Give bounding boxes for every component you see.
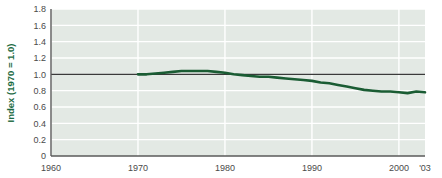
- y-tick-label: 0.6: [33, 102, 46, 112]
- x-tick-label: '03: [419, 163, 431, 173]
- y-tick-label: 0.2: [33, 135, 46, 145]
- y-tick-label: 1.6: [33, 21, 46, 31]
- x-tick-label: 1970: [128, 163, 148, 173]
- y-tick-label: 0: [41, 151, 46, 161]
- x-tick-label: 1960: [41, 163, 61, 173]
- plot-area-background: [51, 9, 425, 156]
- y-tick-label: 1.8: [33, 4, 46, 14]
- x-tick-label: 2000: [389, 163, 409, 173]
- x-tick-label: 1990: [302, 163, 322, 173]
- y-tick-label: 0.8: [33, 86, 46, 96]
- chart-container: 1.81.61.41.21.00.80.60.40.20 19601970198…: [0, 0, 442, 178]
- x-tick-label: 1980: [215, 163, 235, 173]
- y-axis-title: Index (1970 = 1.0): [5, 44, 16, 123]
- y-tick-label: 0.4: [33, 119, 46, 129]
- y-tick-label: 1.4: [33, 37, 46, 47]
- y-tick-label: 1.0: [33, 70, 46, 80]
- y-tick-label: 1.2: [33, 53, 46, 63]
- index-line-chart: 1.81.61.41.21.00.80.60.40.20 19601970198…: [0, 0, 442, 178]
